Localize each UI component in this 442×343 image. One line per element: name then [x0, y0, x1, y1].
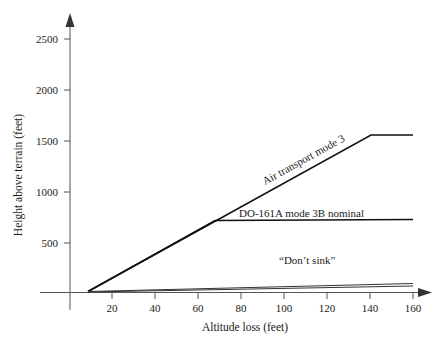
x-tick-label-20: 20 — [107, 302, 119, 314]
x-tick-label-40: 40 — [150, 302, 162, 314]
y-tick-label-2000: 2000 — [36, 84, 59, 96]
x-tick-label-140: 140 — [362, 302, 379, 314]
y-tick-label-1000: 1000 — [36, 186, 59, 198]
y-axis-title: Height above terrain (feet) — [12, 114, 25, 236]
chart-container: 2500 2000 1500 1000 500 20 40 60 80 100 … — [0, 0, 442, 343]
x-tick-label-160: 160 — [405, 302, 422, 314]
series-line-dont-sink — [88, 284, 413, 292]
x-axis-arrow-icon — [418, 288, 432, 297]
x-axis-title: Altitude loss (feet) — [202, 321, 288, 334]
chart-svg: 2500 2000 1500 1000 500 20 40 60 80 100 … — [0, 0, 442, 343]
x-axis-ticks — [112, 293, 413, 300]
y-axis-arrow-icon — [66, 13, 75, 27]
y-tick-label-500: 500 — [42, 237, 59, 249]
series-label-air-transport-mode-3: Air transport mode 3 — [260, 132, 347, 187]
x-tick-label-60: 60 — [193, 302, 205, 314]
series-label-dont-sink: “Don’t sink” — [279, 254, 335, 266]
series-label-do161a-mode-3b-nominal: DO-161A mode 3B nominal — [239, 207, 364, 219]
x-tick-label-120: 120 — [319, 302, 336, 314]
series-line-dont-sink-lower — [88, 286, 413, 292]
y-tick-label-2500: 2500 — [36, 33, 59, 45]
y-axis-ticks — [64, 39, 70, 243]
series-line-do161a-mode-3b-nominal — [88, 220, 413, 292]
x-tick-label-100: 100 — [276, 302, 293, 314]
x-tick-label-80: 80 — [236, 302, 248, 314]
y-tick-label-1500: 1500 — [36, 135, 59, 147]
